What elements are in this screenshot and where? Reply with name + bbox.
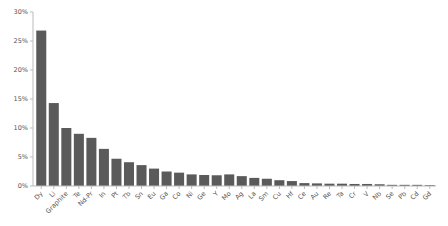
- x-tick-label: Se: [384, 190, 395, 201]
- x-axis: DyLiGraphiteTeNd-PrInPtTbSnEuGaCoNiGeYMo…: [33, 186, 436, 215]
- x-tick-label: Ta: [334, 190, 345, 201]
- bar-ag[interactable]: [237, 176, 247, 186]
- x-tick-label: Ge: [196, 190, 208, 202]
- x-tick-label: Mo: [220, 190, 232, 202]
- bar-pt[interactable]: [111, 159, 121, 186]
- y-tick-label: 0%: [18, 182, 28, 190]
- y-tick-label: 15%: [14, 95, 28, 103]
- x-tick-label: Pt: [110, 189, 121, 200]
- x-tick-label: Au: [309, 190, 321, 202]
- bar-ga[interactable]: [162, 172, 172, 187]
- x-tick-label: Gd: [421, 190, 433, 202]
- x-tick-label: Cr: [347, 190, 358, 201]
- x-tick-label: Nd-Pr: [77, 190, 95, 208]
- bar-in[interactable]: [99, 149, 109, 186]
- x-tick-label: Dy: [33, 190, 45, 202]
- bar-co[interactable]: [174, 173, 184, 186]
- x-tick-label: Ni: [185, 190, 196, 201]
- y-tick-label: 20%: [14, 66, 28, 74]
- x-tick-label: Ga: [158, 190, 170, 202]
- y-tick-label: 30%: [14, 8, 28, 16]
- x-tick-label: Sn: [133, 190, 144, 201]
- y-axis: 0%5%10%15%20%25%30%: [14, 8, 33, 190]
- x-tick-label: Re: [321, 190, 332, 201]
- bar-li[interactable]: [49, 103, 59, 186]
- bar-mo[interactable]: [224, 174, 234, 186]
- x-tick-label: Hf: [285, 189, 296, 200]
- y-tick-label: 25%: [14, 37, 28, 45]
- x-tick-label: Cu: [271, 190, 283, 202]
- x-tick-label: La: [247, 190, 258, 201]
- x-tick-label: Ag: [233, 190, 245, 202]
- x-tick-label: Eu: [146, 190, 157, 201]
- x-tick-label: Sm: [257, 190, 270, 203]
- bar-y[interactable]: [212, 175, 222, 186]
- bar-sn[interactable]: [137, 165, 147, 186]
- bar-dy[interactable]: [36, 31, 46, 186]
- x-tick-label: Pb: [397, 190, 408, 201]
- bars: [36, 31, 434, 186]
- bar-nd-pr[interactable]: [86, 138, 96, 186]
- bar-la[interactable]: [249, 178, 259, 186]
- bar-chart: 0%5%10%15%20%25%30% DyLiGraphiteTeNd-PrI…: [0, 0, 448, 226]
- bar-sm[interactable]: [262, 179, 272, 186]
- x-tick-label: Ce: [296, 190, 308, 202]
- x-tick-label: Tb: [120, 190, 132, 202]
- x-tick-label: Cd: [409, 190, 421, 202]
- bar-hf[interactable]: [287, 181, 297, 186]
- bar-te[interactable]: [74, 134, 84, 186]
- bar-ni[interactable]: [187, 174, 197, 186]
- bar-graphite[interactable]: [61, 128, 71, 186]
- x-tick-label: Co: [171, 190, 183, 202]
- x-tick-label: V: [362, 189, 371, 198]
- bar-tb[interactable]: [124, 162, 134, 186]
- y-tick-label: 5%: [18, 153, 28, 161]
- y-tick-label: 10%: [14, 124, 28, 132]
- x-tick-label: Y: [211, 190, 220, 199]
- x-tick-label: In: [97, 190, 107, 200]
- bar-ge[interactable]: [199, 175, 209, 186]
- x-tick-label: Nb: [371, 190, 383, 202]
- bar-cu[interactable]: [274, 180, 284, 186]
- bar-eu[interactable]: [149, 169, 159, 186]
